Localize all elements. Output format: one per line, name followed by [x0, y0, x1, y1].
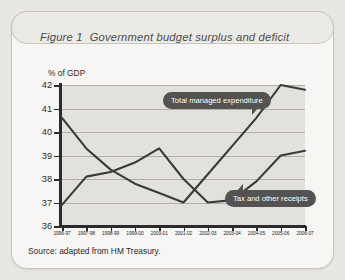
x-axis-tick-label: 1996-97: [53, 231, 70, 236]
y-axis-tick-label: 40: [30, 127, 52, 137]
y-axis-tick-label: 38: [30, 174, 52, 184]
source-note: Source: adapted from HM Treasury.: [28, 246, 161, 256]
callout-receipts-text: Tax and other receipts: [233, 194, 308, 203]
callout-expenditure-text: Total managed expenditure: [171, 96, 263, 105]
figure-title: Government budget surplus and deficit: [90, 31, 290, 43]
y-axis-labels: 36373839404142: [26, 0, 52, 280]
x-axis-tick-label: 1999-00: [126, 231, 143, 236]
x-axis-tick-label: 2000-01: [151, 231, 168, 236]
y-axis-tick: [54, 203, 60, 205]
x-axis-tick-label: 2003-04: [223, 231, 240, 236]
x-axis-tick-label: 2002-03: [199, 231, 216, 236]
callout-tail-icon: [252, 107, 259, 115]
y-axis-tick-label: 42: [30, 80, 52, 90]
y-axis-tick: [54, 85, 60, 87]
x-axis-tick-label: 2001-02: [175, 231, 192, 236]
y-axis-title: % of GDP: [48, 68, 85, 78]
callout-tail-icon: [236, 184, 243, 192]
callout-tax-and-other-receipts: Tax and other receipts: [225, 190, 316, 207]
y-axis-tick: [54, 109, 60, 111]
x-axis-tick-label: 1998-99: [102, 231, 119, 236]
figure-header: Figure 1Government budget surplus and de…: [11, 11, 334, 44]
x-axis-tick-label: 2006-07: [296, 231, 313, 236]
y-axis-tick-label: 39: [30, 151, 52, 161]
y-axis-tick-label: 36: [30, 221, 52, 231]
y-axis-tick: [54, 132, 60, 134]
y-axis-tick: [54, 156, 60, 158]
y-axis-tick: [54, 226, 60, 228]
figure-title-row: Figure 1Government budget surplus and de…: [40, 31, 289, 43]
x-axis-tick-label: 2004-05: [248, 231, 265, 236]
y-axis-tick-label: 41: [30, 104, 52, 114]
x-axis-tick-label: 1997-98: [78, 231, 95, 236]
x-axis-tick-label: 2005-06: [272, 231, 289, 236]
figure-page: Figure 1Government budget surplus and de…: [0, 0, 345, 280]
y-axis-tick: [54, 179, 60, 181]
y-axis-tick-label: 37: [30, 198, 52, 208]
callout-total-managed-expenditure: Total managed expenditure: [163, 92, 271, 109]
